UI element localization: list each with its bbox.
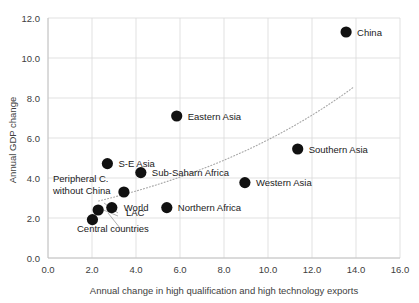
x-tick-label: 8.0 bbox=[217, 264, 230, 275]
x-axis-title: Annual change in high qualification and … bbox=[90, 285, 359, 296]
data-point bbox=[102, 158, 113, 169]
data-point bbox=[341, 26, 352, 37]
data-point bbox=[171, 110, 182, 121]
y-axis-title: Annual GDP change bbox=[7, 97, 18, 183]
peripheral-line1: Peripheral C. bbox=[53, 173, 108, 184]
data-point-label: Eastern Asia bbox=[188, 111, 242, 122]
lac-label: LAC bbox=[126, 207, 145, 218]
y-tick-label: 10.0 bbox=[22, 53, 41, 64]
data-point bbox=[161, 202, 172, 213]
peripheral-line2: without China bbox=[52, 185, 111, 196]
x-tick-label: 12.0 bbox=[303, 264, 322, 275]
y-tick-label: 8.0 bbox=[27, 93, 40, 104]
x-tick-label: 10.0 bbox=[259, 264, 278, 275]
data-point bbox=[292, 143, 303, 154]
y-tick-label: 12.0 bbox=[22, 13, 41, 24]
x-tick-label: 2.0 bbox=[85, 264, 98, 275]
data-point-label: S-E Asia bbox=[118, 158, 155, 169]
x-tick-label: 4.0 bbox=[129, 264, 142, 275]
x-tick-label: 6.0 bbox=[173, 264, 186, 275]
central-label: Central countries bbox=[77, 223, 149, 234]
data-point-label: Sub-Saharn Africa bbox=[152, 167, 230, 178]
scatter-chart: ChinaEastern AsiaSouthern AsiaS-E AsiaSu… bbox=[0, 0, 419, 303]
data-point bbox=[239, 177, 250, 188]
y-tick-label: 2.0 bbox=[27, 213, 40, 224]
y-tick-label: 6.0 bbox=[27, 133, 40, 144]
data-point-label: China bbox=[357, 27, 383, 38]
y-tick-label: 4.0 bbox=[27, 173, 40, 184]
data-point bbox=[93, 204, 104, 215]
data-point bbox=[118, 186, 129, 197]
data-point bbox=[106, 202, 117, 213]
x-tick-label: 16.0 bbox=[391, 264, 410, 275]
x-tick-label: 14.0 bbox=[347, 264, 366, 275]
data-point-label: Western Asia bbox=[256, 177, 313, 188]
data-point-label: Southern Asia bbox=[309, 144, 369, 155]
x-tick-label: 0.0 bbox=[41, 264, 54, 275]
data-point-label: Northern Africa bbox=[178, 202, 242, 213]
x-axis-ticks: 0.02.04.06.08.010.012.014.016.0 bbox=[41, 264, 409, 275]
chart-canvas: ChinaEastern AsiaSouthern AsiaS-E AsiaSu… bbox=[0, 0, 419, 303]
y-tick-label: 0.0 bbox=[27, 253, 40, 264]
